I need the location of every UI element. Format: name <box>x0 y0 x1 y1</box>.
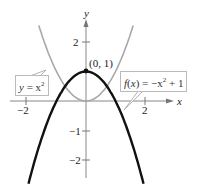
y-axis-label: y <box>84 8 89 19</box>
callout-y-equals-x-squared: y = x2 <box>15 75 49 96</box>
callout-left-sup: 2 <box>41 80 45 88</box>
callout-right-tail: + 1 <box>166 77 183 89</box>
x-tick-label--2: −2 <box>17 105 29 116</box>
vertex-label: (0, 1) <box>89 58 113 69</box>
callout-right-eq: ) = −x <box>136 77 163 89</box>
y-axis-arrow-icon <box>84 19 89 27</box>
y-tick-label--2: −2 <box>69 155 81 166</box>
callout-f-of-x: f(x) = −x2 + 1 <box>120 71 187 92</box>
x-axis-label: x <box>177 96 182 107</box>
y-tick-label--1: −1 <box>69 126 81 137</box>
x-axis-arrow-icon <box>166 99 174 104</box>
vertex-point <box>84 69 89 74</box>
callout-left-eq: = x <box>24 81 41 93</box>
y-tick-label-2: 2 <box>73 37 79 48</box>
x-tick-label-2: 2 <box>142 105 148 116</box>
